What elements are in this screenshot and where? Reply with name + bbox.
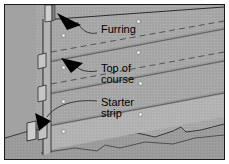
- starter-strip-block-left: [27, 121, 36, 141]
- illustration-frame: Furring Top ofcourse Starterstrip: [4, 4, 225, 160]
- nail-marker: [137, 20, 140, 23]
- siding-detail-figure: Furring Top ofcourse Starterstrip: [0, 0, 229, 164]
- nail-marker: [62, 34, 65, 37]
- label-furring: Furring: [101, 24, 136, 35]
- label-starter-strip: Starterstrip: [101, 97, 134, 119]
- nail-marker: [139, 113, 142, 116]
- nail-marker: [62, 66, 65, 69]
- furring-block-1: [38, 53, 46, 69]
- label-top-of-course-line2: course: [101, 73, 134, 85]
- label-starter-strip-line2: strip: [101, 107, 122, 119]
- furring-block-2: [38, 85, 46, 102]
- nail-marker: [62, 130, 65, 133]
- furring-top-stub-shadow: [52, 5, 55, 21]
- nail-marker: [137, 51, 140, 54]
- nail-marker: [139, 82, 142, 85]
- label-top-of-course: Top ofcourse: [101, 63, 134, 85]
- nail-marker: [62, 100, 65, 103]
- furring-top-stub: [45, 5, 52, 22]
